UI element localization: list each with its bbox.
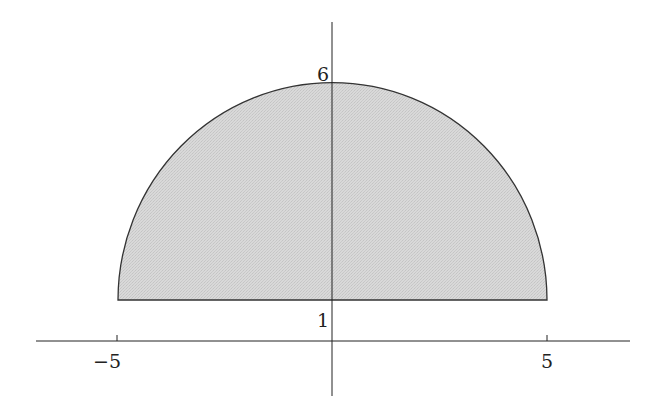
y-label-6: 6 — [317, 63, 329, 85]
x-label-5: 5 — [541, 350, 553, 372]
diagram-canvas: −5 5 1 6 — [0, 0, 662, 405]
x-label-neg5: −5 — [93, 350, 121, 372]
y-label-1: 1 — [317, 309, 329, 331]
